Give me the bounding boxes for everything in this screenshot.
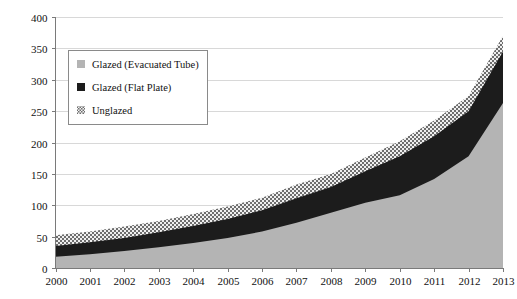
x-tick-label: 2006 — [252, 275, 275, 287]
y-tick-label: 100 — [31, 200, 48, 212]
y-tick-label: 300 — [31, 75, 48, 87]
chart-legend: Glazed (Evacuated Tube) Glazed (Flat Pla… — [69, 51, 208, 125]
chart-canvas: 050100150200250300350400 200020012002200… — [0, 0, 517, 299]
x-tick-label: 2003 — [149, 275, 172, 287]
x-tick-label: 2002 — [114, 275, 136, 287]
stacked-area-chart: 050100150200250300350400 200020012002200… — [0, 0, 517, 299]
x-tick-label: 2011 — [424, 275, 446, 287]
y-tick-label: 0 — [42, 263, 48, 275]
unglazed-swatch — [77, 106, 85, 114]
x-tick-label: 2013 — [493, 275, 516, 287]
x-tick-label: 2001 — [80, 275, 102, 287]
flat-plate-swatch — [77, 83, 85, 91]
x-tick-label: 2012 — [459, 275, 481, 287]
legend-label-evacuated-tube: Glazed (Evacuated Tube) — [92, 59, 199, 71]
x-tick-label: 2000 — [46, 275, 69, 287]
x-tick-label: 2008 — [321, 275, 344, 287]
x-tick-label: 2009 — [355, 275, 378, 287]
y-tick-label: 200 — [31, 138, 48, 150]
evacuated-tube-swatch — [77, 60, 85, 68]
x-tick-label: 2004 — [183, 275, 206, 287]
legend-label-unglazed: Unglazed — [92, 105, 133, 116]
y-tick-label: 150 — [31, 169, 48, 181]
x-tick-label: 2005 — [218, 275, 241, 287]
x-tick-label: 2007 — [286, 275, 309, 287]
legend-label-flat-plate: Glazed (Flat Plate) — [92, 82, 172, 94]
y-tick-label: 400 — [31, 12, 48, 24]
x-tick-label: 2010 — [390, 275, 413, 287]
y-tick-label: 350 — [31, 43, 48, 55]
y-tick-label: 250 — [31, 106, 48, 118]
y-tick-label: 50 — [37, 232, 49, 244]
